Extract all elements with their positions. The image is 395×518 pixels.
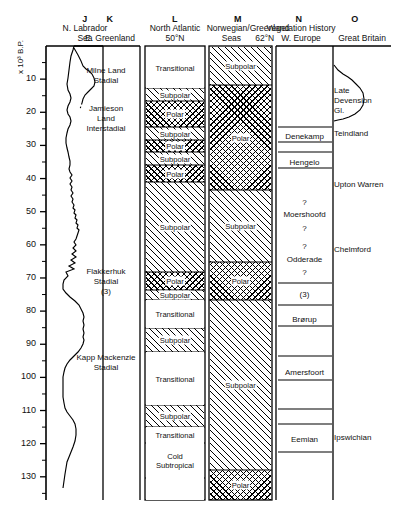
climate-zone-label: Polar <box>231 133 251 142</box>
stratigraphic-unit-label: Hengelo <box>277 158 332 168</box>
climate-zone-label: Subpolar <box>224 381 256 390</box>
climate-zone-label: Cold Subtropical <box>155 452 195 470</box>
stratigraphic-unit-label: Kapp Mackenzie Stadial <box>74 353 138 373</box>
stratigraphic-unit-label: Odderade <box>277 255 332 265</box>
climate-zone-label: Subpolar <box>224 222 256 231</box>
stratigraphic-unit-label: ? <box>277 198 332 208</box>
climate-zone-label: Polar <box>165 110 185 119</box>
climate-zone-label: Transitional <box>155 374 196 383</box>
climate-zone-label: Subpolar <box>159 223 191 232</box>
climate-zone <box>146 478 204 500</box>
climate-zone-label: Polar <box>231 277 251 286</box>
stratigraphic-unit-label: Flakkerhuk Stadial (3) <box>74 267 138 297</box>
climate-zone-label: Polar <box>231 481 251 490</box>
stratigraphic-unit-label: Jamieson Land Interstadial <box>74 104 138 134</box>
correlation-chart: J K L M N O N. Labrador Sea E. Greenland… <box>0 0 395 518</box>
stratigraphic-unit-label: Late Devension Gl. <box>334 86 394 116</box>
climate-zone-label: Polar <box>165 142 185 151</box>
climate-zone-label: Subpolar <box>159 90 191 99</box>
col-n-entries: DenekampHengelo?Moershoofd??Odderade?(3)… <box>277 0 332 518</box>
stratigraphic-unit-label: Chelmford <box>334 245 394 255</box>
stratigraphic-unit-label: ? <box>277 224 332 234</box>
col-o-entries: Late Devension Gl.TeindlandUpton WarrenC… <box>334 0 394 518</box>
stratigraphic-unit-label: Upton Warren <box>334 180 394 190</box>
stratigraphic-unit-label: (3) <box>277 290 332 300</box>
stratigraphic-unit-label: Eemian <box>277 435 332 445</box>
stratigraphic-unit-label: Milne Land Stadial <box>74 66 138 86</box>
stratigraphic-unit-label: ? <box>277 242 332 252</box>
col-l-zones: TransitionalSubpolarPolarSubpolarPolarSu… <box>146 47 204 499</box>
col-m-zones: SubpolarPolarSubpolarPolarSubpolarPolar <box>210 47 271 499</box>
stratigraphic-unit-label: Ipswichian <box>334 433 394 443</box>
climate-zone-label: Polar <box>165 277 185 286</box>
stratigraphic-unit-label: Brørup <box>277 315 332 325</box>
climate-zone-label: Subpolar <box>159 412 191 421</box>
climate-zone-label: Transitional <box>155 310 196 319</box>
stratigraphic-unit-label: Amersfoort <box>277 368 332 378</box>
climate-zone-label: Polar <box>165 169 185 178</box>
stratigraphic-unit-label: Teindland <box>334 129 394 139</box>
climate-zone-label: Transitional <box>155 431 196 440</box>
climate-zone-label: Transitional <box>155 63 196 72</box>
climate-zone-label: Subpolar <box>224 62 256 71</box>
stratigraphic-unit-label: ? <box>277 268 332 278</box>
climate-zone-label: Subpolar <box>159 291 191 300</box>
climate-zone-label: Subpolar <box>159 129 191 138</box>
climate-zone-label: Subpolar <box>159 336 191 345</box>
stratigraphic-unit-label: Moershoofd <box>277 210 332 220</box>
col-k-entries: Milne Land StadialJamieson Land Intersta… <box>74 0 138 518</box>
climate-zone-label: Subpolar <box>159 154 191 163</box>
stratigraphic-unit-label: Denekamp <box>277 132 332 142</box>
